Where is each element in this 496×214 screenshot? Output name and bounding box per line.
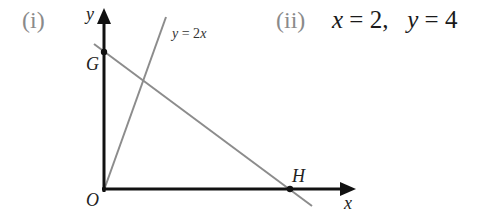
origin-label: O (86, 190, 99, 210)
y-axis-arrow-icon (97, 8, 111, 24)
x-axis-label: x (343, 193, 352, 213)
point-o (102, 187, 106, 191)
point-h (287, 186, 293, 192)
point-h-label: H (291, 166, 306, 186)
coordinate-diagram: y x O G H y = 2x (0, 0, 496, 214)
line-y-equals-2x (104, 17, 166, 190)
line-y-equals-2x-label: y = 2x (170, 26, 207, 41)
point-g-label: G (86, 54, 99, 74)
point-g (101, 49, 107, 55)
y-axis-label: y (84, 4, 94, 24)
